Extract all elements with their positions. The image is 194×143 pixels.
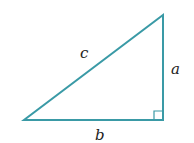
label-hypotenuse-c: c — [80, 46, 88, 61]
label-leg-b: b — [95, 128, 105, 143]
triangle-outline — [24, 15, 163, 120]
right-angle-marker — [154, 111, 163, 120]
label-leg-a: a — [171, 62, 180, 77]
right-triangle-diagram — [0, 0, 194, 143]
